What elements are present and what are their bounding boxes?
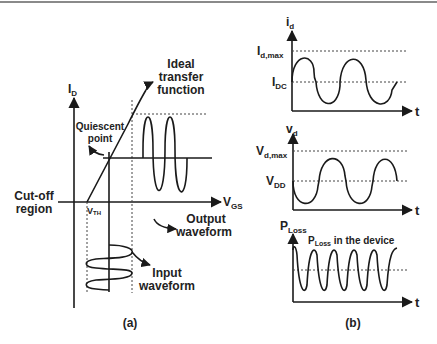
figure-a-caption: (a) xyxy=(123,316,138,330)
ideal-transfer-label-3: function xyxy=(157,83,204,97)
transfer-function-arrow xyxy=(146,82,153,90)
output-waveform xyxy=(143,117,187,192)
quiescent-label-2: point xyxy=(88,133,113,144)
id-max-label: Id,max xyxy=(257,44,284,60)
input-annotation-arrow xyxy=(132,252,150,265)
input-waveform-label-1: Input xyxy=(152,266,181,280)
vd-plot-y-label: vd xyxy=(286,122,298,138)
id-plot-t-label: t xyxy=(415,104,420,119)
ideal-transfer-label-2: transfer xyxy=(159,70,204,84)
vd-plot-t-label: t xyxy=(415,203,420,218)
id-plot: id Id,max IDC t xyxy=(257,15,420,119)
input-waveform-label-2: waveform xyxy=(138,279,195,293)
output-waveform-label-2: waveform xyxy=(175,225,232,239)
idc-label: IDC xyxy=(272,75,287,91)
ploss-plot-y-label: PLoss xyxy=(280,219,307,235)
quiescent-label-1: Quiescent xyxy=(76,121,125,132)
vd-plot: vd Vd,max VDD t xyxy=(256,122,420,218)
output-waveform-label-1: Output xyxy=(186,212,225,226)
ploss-waveform xyxy=(293,247,397,291)
ploss-plot-t-label: t xyxy=(415,295,420,310)
id-waveform xyxy=(292,58,397,104)
cutoff-label-1: Cut-off xyxy=(14,189,54,203)
transfer-function-line xyxy=(87,90,146,202)
figure-a: ID VGS VTH Ideal transfer function Quies… xyxy=(14,57,243,330)
ideal-transfer-label-1: Ideal xyxy=(167,57,194,71)
figure-b: id Id,max IDC t vd Vd,max VDD t PLoss PL… xyxy=(256,15,420,330)
output-annotation-arrow xyxy=(154,219,176,229)
id-plot-y-label: id xyxy=(286,15,294,31)
vth-label: VTH xyxy=(87,206,101,216)
figure-canvas: ID VGS VTH Ideal transfer function Quies… xyxy=(0,0,437,344)
vgs-axis-label: VGS xyxy=(223,195,243,211)
ploss-annotation: PLoss in the device xyxy=(308,235,395,247)
ploss-plot: PLoss PLoss in the device t xyxy=(280,219,420,310)
vd-max-label: Vd,max xyxy=(256,144,288,160)
vdd-label: VDD xyxy=(266,174,286,190)
cutoff-label-2: region xyxy=(16,202,53,216)
quiescent-annotation-arrow xyxy=(89,146,104,155)
figure-b-caption: (b) xyxy=(345,316,360,330)
id-axis-label: ID xyxy=(68,82,77,98)
